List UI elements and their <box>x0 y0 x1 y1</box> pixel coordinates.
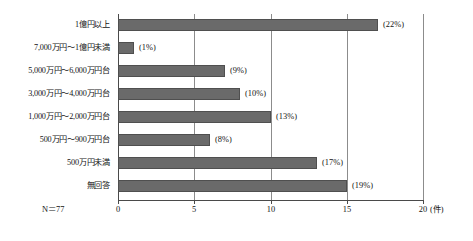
bar[interactable] <box>118 111 271 123</box>
category-label: 無回答 <box>87 180 110 192</box>
x-tick <box>118 200 119 204</box>
category-label: 1,000万円～2,000万円台 <box>28 111 110 123</box>
bar[interactable] <box>118 134 210 146</box>
category-label: 3,000万円～4,000万円台 <box>28 88 110 100</box>
x-tick <box>271 200 272 204</box>
bar[interactable] <box>118 19 378 31</box>
x-tick-label: 0 <box>116 205 120 215</box>
bar-row: (22%) <box>118 19 424 31</box>
category-label: 7,000万円～1億円未満 <box>34 42 110 54</box>
bar[interactable] <box>118 180 347 192</box>
bar[interactable] <box>118 157 317 169</box>
bar-row: (10%) <box>118 88 424 100</box>
bar[interactable] <box>118 42 134 54</box>
category-label: 1億円以上 <box>75 19 110 31</box>
bar-value-label: (13%) <box>276 111 297 123</box>
bar-chart: 1億円以上 7,000万円～1億円未満 5,000万円～6,000万円台 3,0… <box>0 0 473 241</box>
bar[interactable] <box>118 65 225 77</box>
category-label: 500万円～900万円台 <box>40 134 110 146</box>
sample-size-note: N＝77 <box>42 205 64 215</box>
bar-value-label: (22%) <box>383 19 404 31</box>
x-tick-label: 10 <box>267 205 275 215</box>
x-axis-line <box>118 200 424 201</box>
x-tick-label: 15 <box>343 205 351 215</box>
bar-row: (8%) <box>118 134 424 146</box>
x-axis-unit-label: (件) <box>430 205 444 215</box>
bar-row: (17%) <box>118 157 424 169</box>
bar-row: (19%) <box>118 180 424 192</box>
bar-value-label: (19%) <box>352 180 373 192</box>
bar-row: (9%) <box>118 65 424 77</box>
x-tick-label: 5 <box>192 205 196 215</box>
bar-row: (1%) <box>118 42 424 54</box>
plot-area: (22%) (1%) (9%) (10%) (13%) (8%) (17%) <box>118 14 424 200</box>
x-tick <box>194 200 195 204</box>
bar-value-label: (9%) <box>230 65 247 77</box>
bar-value-label: (1%) <box>139 42 156 54</box>
bar-row: (13%) <box>118 111 424 123</box>
bar-value-label: (17%) <box>322 157 343 169</box>
x-tick-label: 20 <box>419 205 427 215</box>
category-label: 5,000万円～6,000万円台 <box>28 65 110 77</box>
category-axis: 1億円以上 7,000万円～1億円未満 5,000万円～6,000万円台 3,0… <box>0 14 114 200</box>
bar-value-label: (8%) <box>215 134 232 146</box>
x-tick <box>347 200 348 204</box>
bar[interactable] <box>118 88 240 100</box>
x-tick <box>423 200 424 204</box>
category-label: 500万円未満 <box>67 157 110 169</box>
bar-value-label: (10%) <box>245 88 266 100</box>
